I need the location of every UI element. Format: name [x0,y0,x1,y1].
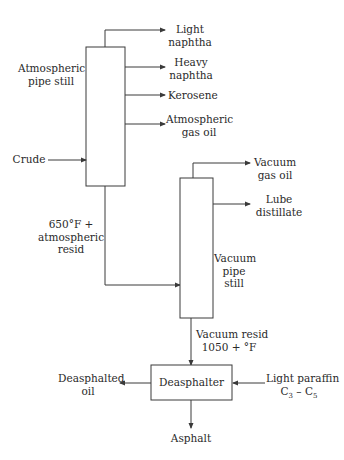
label-line: naphtha [168,36,212,49]
label-line: still [214,277,254,290]
formula-part: C [305,385,313,397]
label-line: 1050 + °F [196,341,262,354]
atmospheric-pipe-still-label: Atmospheric pipe still [18,62,84,87]
deasphalter-label: Deasphalter [151,376,232,388]
light-paraffin-label: Light paraffin C3 – C5 [266,372,332,402]
atmospheric-resid-line [105,186,180,285]
atmospheric-resid-label: 650°F + atmospheric resid [38,218,104,256]
label-line: Lube [255,193,303,206]
label-line: Heavy [168,56,214,69]
light-naphtha-label: Light naphtha [168,23,212,48]
label-line: oil [58,385,118,398]
light-naphtha-line [105,30,165,47]
label-line: pipe still [18,75,84,88]
vacuum-gas-oil-line [193,163,250,178]
label-line: Vacuum resid [196,328,262,341]
atmospheric-gas-oil-label: Atmospheric gas oil [166,113,232,138]
label-line: Atmospheric [166,113,232,126]
asphalt-label: Asphalt [166,432,216,445]
label-line: Light [168,23,212,36]
label-line: distillate [255,206,303,219]
label-line: gas oil [253,169,297,182]
atmospheric-pipe-still-column [86,47,125,186]
vacuum-pipe-still-column [180,178,213,318]
label-line: naphtha [168,69,214,82]
label-line: Asphalt [166,432,216,445]
label-line: Crude [12,153,46,166]
label-line: resid [38,243,104,256]
label-line: Deasphalted [58,372,118,385]
label-line: pipe [214,265,254,278]
label-line: Kerosene [168,89,216,102]
lube-distillate-label: Lube distillate [255,193,303,218]
label-line: atmospheric [38,231,104,244]
vacuum-resid-label: Vacuum resid 1050 + °F [196,328,262,353]
label-line: Vacuum [214,252,254,265]
label-line: Atmospheric [18,62,84,75]
crude-label: Crude [12,153,46,166]
label-line: 650°F + [38,218,104,231]
heavy-naphtha-label: Heavy naphtha [168,56,214,81]
label-line: Vacuum [253,156,297,169]
label-line: gas oil [166,126,232,139]
formula-part: C [281,385,289,397]
vacuum-pipe-still-label: Vacuum pipe still [214,252,254,290]
vacuum-gas-oil-label: Vacuum gas oil [253,156,297,181]
kerosene-label: Kerosene [168,89,216,102]
formula-subscript: 5 [313,392,317,400]
light-paraffin-formula: C3 – C5 [266,385,332,403]
formula-part: – [293,385,305,397]
deasphalted-oil-label: Deasphalted oil [58,372,118,397]
label-line: Light paraffin [266,372,332,385]
